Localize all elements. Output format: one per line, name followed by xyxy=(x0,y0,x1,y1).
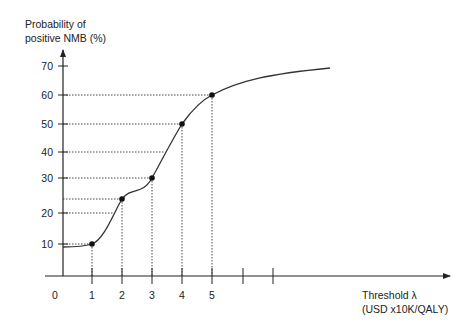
x-tick-labels: 0 1 2 3 4 5 xyxy=(52,289,215,301)
data-point-1 xyxy=(89,241,95,247)
svg-text:5: 5 xyxy=(209,289,215,301)
svg-text:60: 60 xyxy=(41,89,53,101)
guide-lines xyxy=(63,95,212,276)
svg-text:50: 50 xyxy=(41,118,53,130)
svg-text:2: 2 xyxy=(119,289,125,301)
svg-text:10: 10 xyxy=(41,238,53,250)
acceptability-curve xyxy=(63,178,152,247)
y-axis-label-line1: Probability of xyxy=(25,18,86,30)
data-point-3 xyxy=(149,175,155,181)
y-axis-label-line2: positive NMB (%) xyxy=(25,32,106,44)
data-point-4 xyxy=(179,121,185,127)
svg-text:70: 70 xyxy=(41,60,53,72)
svg-text:3: 3 xyxy=(149,289,155,301)
x-axis-label-line2: (USD x10K/QALY) xyxy=(362,303,448,315)
origin-label: 0 xyxy=(52,289,58,301)
data-point-2 xyxy=(119,196,125,202)
svg-text:4: 4 xyxy=(179,289,185,301)
data-point-5 xyxy=(209,92,215,98)
svg-text:30: 30 xyxy=(41,172,53,184)
svg-text:1: 1 xyxy=(89,289,95,301)
svg-text:40: 40 xyxy=(41,146,53,158)
y-tick-labels: 10 20 30 40 50 60 70 xyxy=(41,60,53,250)
chart-canvas: Probability of positive NMB (%) 10 20 30… xyxy=(0,0,472,324)
x-axis-label-line1: Threshold λ xyxy=(362,289,418,301)
svg-text:20: 20 xyxy=(41,207,53,219)
